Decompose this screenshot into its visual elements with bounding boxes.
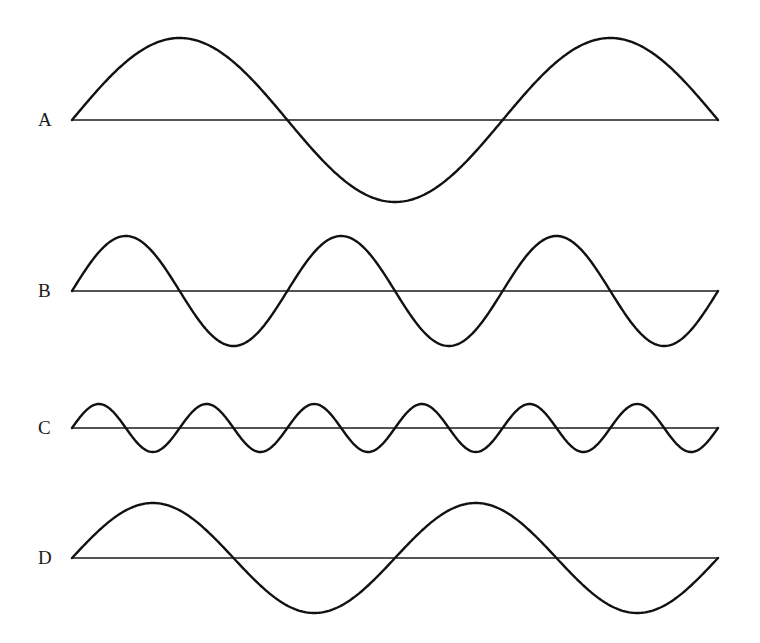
wave-group-d: D	[38, 503, 718, 613]
wave-group-a: A	[38, 38, 718, 202]
wave-group-b: B	[38, 236, 718, 346]
waveform-figure: A B C D	[0, 0, 760, 643]
wave-label-b: B	[38, 280, 51, 301]
wave-label-a: A	[38, 109, 52, 130]
wave-label-c: C	[38, 417, 51, 438]
wave-label-d: D	[38, 547, 52, 568]
wave-group-c: C	[38, 404, 718, 452]
